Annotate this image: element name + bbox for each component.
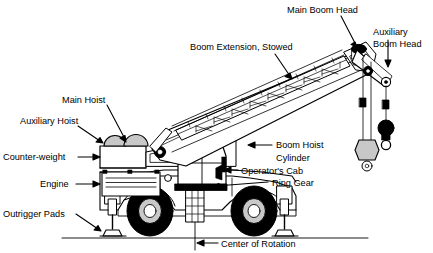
engine-compartment	[102, 170, 160, 196]
front-wheel	[231, 186, 277, 236]
label-main-boom-head: Main Boom Head	[287, 5, 358, 15]
crane-diagram-svg: Main Boom Head Auxiliary Boom Head Boom …	[0, 0, 433, 253]
label-boom-extension-stowed: Boom Extension, Stowed	[190, 42, 293, 52]
counterweight-block	[100, 146, 146, 168]
label-boom-hoist-cylinder-line2: Cylinder	[276, 153, 310, 163]
label-auxiliary-boom-head-line1: Auxiliary	[373, 27, 408, 37]
crane-diagram: Main Boom Head Auxiliary Boom Head Boom …	[0, 0, 433, 253]
label-main-hoist: Main Hoist	[62, 95, 106, 105]
swing-post	[186, 190, 204, 222]
label-engine: Engine	[40, 179, 69, 189]
label-outrigger-pads: Outrigger Pads	[3, 209, 65, 219]
label-auxiliary-hoist: Auxiliary Hoist	[20, 116, 79, 126]
label-boom-hoist-cylinder-line1: Boom Hoist	[276, 140, 324, 150]
label-ring-gear: Ring Gear	[272, 178, 314, 188]
label-counter-weight: Counter-weight	[3, 152, 66, 162]
label-center-of-rotation: Center of Rotation	[221, 239, 296, 249]
label-auxiliary-boom-head-line2: Boom Head	[373, 39, 422, 49]
label-operators-cab: Operator's Cab	[241, 166, 303, 176]
